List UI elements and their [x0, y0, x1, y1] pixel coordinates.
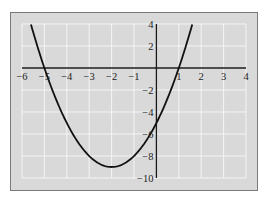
parabola-chart: −6−5−4−3−2−11234 42−2−4−6−8−10 [0, 0, 263, 199]
x-tick-label: 1 [176, 71, 181, 82]
x-tick-label: −6 [16, 71, 27, 82]
x-tick-label: −5 [39, 71, 50, 82]
x-tick-label: −3 [84, 71, 95, 82]
x-tick-label: −1 [128, 71, 139, 82]
y-tick-label: −2 [142, 85, 153, 96]
x-tick-label: 3 [221, 71, 226, 82]
y-tick-label: −6 [142, 129, 153, 140]
y-tick-label: 4 [148, 19, 154, 30]
x-tick-label: −2 [106, 71, 117, 82]
y-tick-label: −8 [142, 151, 153, 162]
y-tick-label: −10 [137, 173, 153, 184]
y-tick-label: 2 [148, 41, 153, 52]
x-tick-label: 4 [243, 71, 249, 82]
y-tick-label: −4 [142, 107, 154, 118]
x-tick-label: −4 [61, 71, 73, 82]
x-tick-label: 2 [199, 71, 204, 82]
